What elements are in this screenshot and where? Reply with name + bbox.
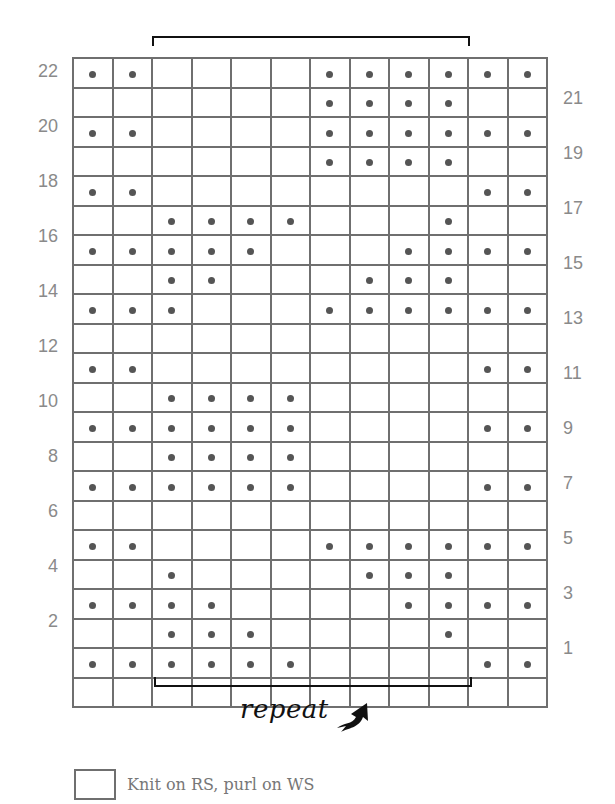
chart-row-19 bbox=[73, 147, 547, 177]
purl-dot-icon bbox=[484, 484, 491, 491]
stitch-cell bbox=[350, 501, 390, 531]
stitch-cell bbox=[468, 147, 508, 177]
stitch-cell bbox=[231, 589, 271, 619]
stitch-cell bbox=[350, 530, 390, 560]
stitch-cell bbox=[468, 619, 508, 649]
stitch-cell bbox=[113, 265, 153, 295]
stitch-cell bbox=[350, 560, 390, 590]
purl-dot-icon bbox=[405, 543, 412, 550]
stitch-cell bbox=[73, 117, 113, 147]
row-label-18: 18 bbox=[38, 172, 58, 190]
stitch-cell bbox=[429, 648, 469, 678]
purl-dot-icon bbox=[129, 602, 136, 609]
stitch-cell bbox=[152, 560, 192, 590]
purl-dot-icon bbox=[326, 100, 333, 107]
stitch-cell bbox=[152, 619, 192, 649]
purl-dot-icon bbox=[484, 543, 491, 550]
row-label-4: 4 bbox=[48, 557, 58, 575]
stitch-cell bbox=[231, 648, 271, 678]
stitch-cell bbox=[350, 589, 390, 619]
purl-dot-icon bbox=[287, 425, 294, 432]
stitch-cell bbox=[113, 353, 153, 383]
purl-dot-icon bbox=[168, 484, 175, 491]
purl-dot-icon bbox=[366, 71, 373, 78]
stitch-cell bbox=[73, 648, 113, 678]
stitch-cell bbox=[389, 294, 429, 324]
purl-dot-icon bbox=[326, 159, 333, 166]
stitch-cell bbox=[468, 324, 508, 354]
purl-dot-icon bbox=[129, 307, 136, 314]
stitch-cell bbox=[152, 206, 192, 236]
stitch-cell bbox=[429, 530, 469, 560]
stitch-cell bbox=[152, 471, 192, 501]
purl-dot-icon bbox=[168, 425, 175, 432]
row-label-5: 5 bbox=[563, 529, 573, 547]
stitch-cell bbox=[231, 206, 271, 236]
stitch-cell bbox=[231, 176, 271, 206]
legend-empty-square-icon bbox=[74, 769, 116, 800]
stitch-cell bbox=[192, 206, 232, 236]
stitch-cell bbox=[73, 324, 113, 354]
stitch-cell bbox=[389, 589, 429, 619]
purl-dot-icon bbox=[129, 71, 136, 78]
stitch-cell bbox=[350, 471, 390, 501]
stitch-cell bbox=[310, 383, 350, 413]
stitch-cell bbox=[508, 678, 548, 708]
stitch-cell bbox=[113, 619, 153, 649]
chart-row-9 bbox=[73, 442, 547, 472]
stitch-cell bbox=[350, 619, 390, 649]
chart-row-18 bbox=[73, 176, 547, 206]
stitch-cell bbox=[113, 58, 153, 88]
stitch-cell bbox=[508, 353, 548, 383]
purl-dot-icon bbox=[366, 572, 373, 579]
purl-dot-icon bbox=[326, 130, 333, 137]
stitch-cell bbox=[429, 353, 469, 383]
purl-dot-icon bbox=[129, 661, 136, 668]
stitch-cell bbox=[271, 265, 311, 295]
stitch-cell bbox=[310, 560, 350, 590]
purl-dot-icon bbox=[129, 484, 136, 491]
stitch-cell bbox=[231, 117, 271, 147]
stitch-cell bbox=[389, 147, 429, 177]
purl-dot-icon bbox=[524, 130, 531, 137]
purl-dot-icon bbox=[247, 631, 254, 638]
purl-dot-icon bbox=[524, 425, 531, 432]
row-label-3: 3 bbox=[563, 584, 573, 602]
purl-dot-icon bbox=[89, 307, 96, 314]
stitch-cell bbox=[192, 324, 232, 354]
stitch-cell bbox=[350, 324, 390, 354]
stitch-cell bbox=[73, 560, 113, 590]
stitch-cell bbox=[310, 471, 350, 501]
stitch-cell bbox=[271, 353, 311, 383]
purl-dot-icon bbox=[89, 602, 96, 609]
stitch-cell bbox=[389, 176, 429, 206]
purl-dot-icon bbox=[445, 631, 452, 638]
stitch-cell bbox=[113, 678, 153, 708]
purl-dot-icon bbox=[524, 71, 531, 78]
purl-dot-icon bbox=[405, 100, 412, 107]
row-label-22: 22 bbox=[38, 62, 58, 80]
stitch-cell bbox=[192, 383, 232, 413]
stitch-cell bbox=[113, 117, 153, 147]
purl-dot-icon bbox=[168, 454, 175, 461]
purl-dot-icon bbox=[366, 130, 373, 137]
purl-dot-icon bbox=[89, 661, 96, 668]
stitch-cell bbox=[468, 501, 508, 531]
row-label-16: 16 bbox=[38, 227, 58, 245]
purl-dot-icon bbox=[484, 248, 491, 255]
purl-dot-icon bbox=[247, 425, 254, 432]
stitch-cell bbox=[310, 294, 350, 324]
purl-dot-icon bbox=[129, 248, 136, 255]
purl-dot-icon bbox=[484, 661, 491, 668]
purl-dot-icon bbox=[445, 572, 452, 579]
stitch-cell bbox=[231, 412, 271, 442]
stitch-cell bbox=[389, 530, 429, 560]
purl-dot-icon bbox=[89, 189, 96, 196]
stitch-cell bbox=[429, 324, 469, 354]
stitch-cell bbox=[152, 353, 192, 383]
purl-dot-icon bbox=[208, 425, 215, 432]
purl-dot-icon bbox=[208, 602, 215, 609]
purl-dot-icon bbox=[208, 484, 215, 491]
repeat-label: repeat bbox=[240, 694, 329, 724]
purl-dot-icon bbox=[287, 395, 294, 402]
